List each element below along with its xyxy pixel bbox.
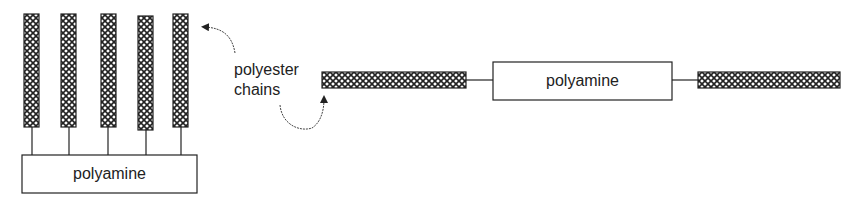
polyester-chain: [61, 14, 76, 127]
polyester-chain: [24, 14, 39, 127]
left-polyamine-label: polyamine: [22, 164, 197, 183]
polyester-chain-right: [698, 72, 840, 88]
polyester-chain: [101, 14, 116, 127]
polyester-chain: [173, 14, 188, 127]
arrow-to-left-chains-icon: [205, 27, 235, 53]
left-polyester-chains: [24, 14, 188, 155]
right-polyamine-label: polyamine: [493, 71, 672, 90]
arrow-to-middle-chain-icon: [280, 99, 324, 129]
annotation-line1: polyester: [234, 60, 299, 79]
polyester-chain: [138, 16, 153, 130]
annotation-line2: chains: [234, 80, 280, 99]
polyester-chain-left: [322, 72, 466, 88]
